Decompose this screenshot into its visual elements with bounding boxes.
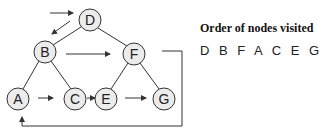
edge-b-c xyxy=(51,61,71,89)
node-b-label: B xyxy=(40,44,49,60)
node-c: C xyxy=(64,88,86,110)
node-c-label: C xyxy=(70,91,80,107)
edge-d-f xyxy=(98,28,127,46)
tree-diagram: D B F A C E G xyxy=(0,0,195,138)
arrow-d-to-b xyxy=(52,21,70,34)
order-sequence: D B F A C E G xyxy=(200,43,322,58)
node-g-label: G xyxy=(159,91,170,107)
node-f: F xyxy=(123,43,145,65)
node-g: G xyxy=(153,88,175,110)
node-e: E xyxy=(95,88,117,110)
node-b: B xyxy=(34,41,56,63)
node-a: A xyxy=(7,88,29,110)
edge-b-a xyxy=(23,61,39,89)
node-e-label: E xyxy=(101,91,110,107)
order-heading: Order of nodes visited xyxy=(200,21,313,36)
node-d: D xyxy=(79,9,101,31)
node-a-label: A xyxy=(13,91,23,107)
node-f-label: F xyxy=(130,46,139,62)
edge-f-e xyxy=(111,63,128,89)
node-d-label: D xyxy=(85,12,95,28)
edge-f-g xyxy=(140,63,159,89)
